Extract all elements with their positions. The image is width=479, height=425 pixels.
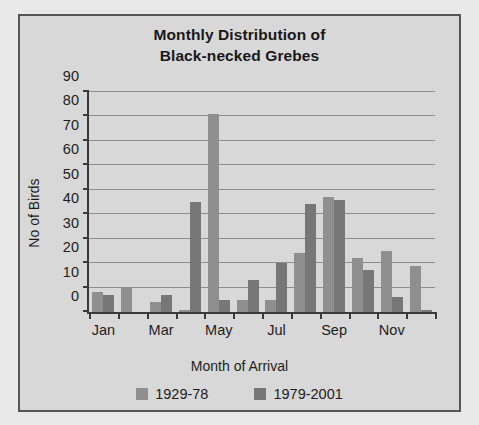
bar-group <box>176 92 205 312</box>
bar-group <box>233 92 262 312</box>
x-axis-tick-label: Mar <box>149 322 174 338</box>
y-axis-tick-label: 90 <box>63 68 79 84</box>
bar-group <box>89 92 118 312</box>
x-axis-tick <box>291 312 293 319</box>
bar <box>381 251 392 312</box>
legend-swatch <box>136 388 148 400</box>
bar <box>294 253 305 312</box>
bar <box>352 258 363 312</box>
bar <box>248 280 259 312</box>
x-axis-tick-label: Jul <box>267 322 286 338</box>
chart-legend: 1929-781979-2001 <box>20 386 459 402</box>
bar-group <box>377 92 406 312</box>
bar <box>92 292 103 312</box>
x-axis-tick <box>176 312 178 319</box>
bar <box>323 197 334 312</box>
x-axis-tick-label: Nov <box>379 322 405 338</box>
y-axis-tick-label: 20 <box>63 239 79 255</box>
x-axis-tick <box>204 312 206 319</box>
chart-title-line-2: Black-necked Grebes <box>20 45 459 66</box>
bar-group <box>320 92 349 312</box>
x-axis-title: Month of Arrival <box>20 358 459 374</box>
bar <box>179 310 190 312</box>
bar <box>103 295 114 312</box>
x-axis-tick <box>377 312 379 319</box>
x-axis-tick <box>147 312 149 319</box>
bar <box>219 300 230 312</box>
bar-group <box>349 92 378 312</box>
legend-label: 1929-78 <box>155 386 208 402</box>
legend-item: 1979-2001 <box>254 386 342 402</box>
x-axis-tick <box>262 312 264 319</box>
legend-swatch <box>254 388 266 400</box>
bar-group <box>147 92 176 312</box>
bar-group <box>406 92 435 312</box>
x-axis-tick <box>406 312 408 319</box>
bar <box>190 202 201 312</box>
x-axis-tick <box>89 312 91 319</box>
legend-label: 1979-2001 <box>273 386 342 402</box>
y-axis-tick-label: 70 <box>63 117 79 133</box>
x-axis-tick <box>320 312 322 319</box>
y-axis-tick-label: 10 <box>63 264 79 280</box>
bar-group <box>291 92 320 312</box>
legend-item: 1929-78 <box>136 386 208 402</box>
bar <box>410 266 421 312</box>
bar-group <box>118 92 147 312</box>
bar <box>161 295 172 312</box>
chart-title: Monthly Distribution of Black-necked Gre… <box>20 24 459 66</box>
y-axis-tick-label: 30 <box>63 215 79 231</box>
x-axis-tick-label: Sep <box>321 322 347 338</box>
chart-figure: Monthly Distribution of Black-necked Gre… <box>18 14 461 412</box>
chart-title-line-1: Monthly Distribution of <box>20 24 459 45</box>
bar <box>421 310 432 312</box>
x-axis-tick-label: May <box>205 322 232 338</box>
y-axis-title: No of Birds <box>26 178 42 247</box>
bar <box>392 297 403 312</box>
y-axis-tick-label: 40 <box>63 190 79 206</box>
bar <box>237 300 248 312</box>
x-axis-tick <box>349 312 351 319</box>
y-axis-tick-label: 80 <box>63 92 79 108</box>
bar <box>276 263 287 312</box>
bar <box>334 200 345 312</box>
y-axis-tick-label: 60 <box>63 141 79 157</box>
y-axis-tick-label: 50 <box>63 166 79 182</box>
plot-area: 0102030405060708090 JanMarMayJulSepNov <box>87 92 435 314</box>
x-axis-tick <box>435 312 437 319</box>
bar-group <box>262 92 291 312</box>
bar <box>208 114 219 312</box>
x-axis-tick <box>233 312 235 319</box>
y-axis-tick-label: 0 <box>71 288 79 304</box>
bar <box>305 204 316 312</box>
bar <box>265 300 276 312</box>
x-axis-tick <box>118 312 120 319</box>
x-axis-tick-label: Jan <box>92 322 115 338</box>
bar-group <box>204 92 233 312</box>
bar <box>363 270 374 312</box>
bar <box>150 302 161 312</box>
bar <box>121 288 132 312</box>
